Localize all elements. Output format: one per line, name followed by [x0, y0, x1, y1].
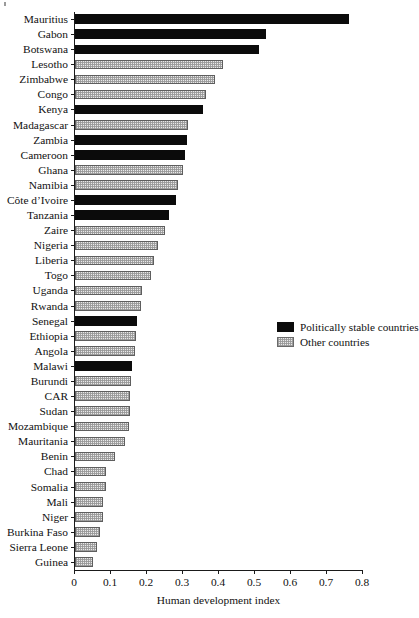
category-label: CAR	[45, 389, 68, 404]
bar	[75, 14, 349, 24]
bar-row: Botswana	[74, 42, 362, 57]
bar-row: Burundi	[74, 374, 362, 389]
bar	[75, 241, 158, 251]
bar	[75, 286, 142, 296]
bar	[75, 75, 215, 85]
bar	[75, 542, 97, 552]
x-axis-tick	[362, 570, 363, 574]
y-axis-tick	[71, 351, 74, 352]
x-axis-title: Human development index	[74, 594, 363, 606]
category-label: Zaire	[44, 223, 68, 238]
bar	[75, 422, 129, 432]
bar	[75, 301, 141, 311]
category-label: Zimbabwe	[19, 72, 68, 87]
category-label: Gabon	[38, 27, 68, 42]
bar	[75, 482, 106, 492]
y-axis-tick	[71, 426, 74, 427]
bar	[75, 346, 135, 356]
x-axis-tick-label: 0.8	[355, 576, 369, 588]
bar-row: Liberia	[74, 253, 362, 268]
bar-row: Uganda	[74, 283, 362, 298]
category-label: Madagascar	[13, 118, 68, 133]
bar	[75, 527, 100, 537]
y-axis-tick	[71, 381, 74, 382]
x-axis-tick-label: 0.4	[211, 576, 225, 588]
plot-area: MauritiusGabonBotswanaLesothoZimbabweCon…	[74, 12, 362, 570]
x-axis-tick-label: 0.1	[103, 576, 117, 588]
bar-row: Zaire	[74, 223, 362, 238]
category-label: Mauritius	[24, 12, 68, 27]
y-axis-tick	[71, 185, 74, 186]
bar-row: Madagascar	[74, 118, 362, 133]
x-axis-tick	[182, 570, 183, 574]
bar	[75, 29, 266, 39]
bar	[75, 165, 183, 175]
bar-row: CAR	[74, 389, 362, 404]
category-label: Ghana	[38, 163, 68, 178]
category-label: Sudan	[40, 404, 68, 419]
category-label: Zambia	[33, 133, 68, 148]
bar	[75, 497, 103, 507]
x-axis-tick-label: 0	[71, 576, 77, 588]
bar-row: Mali	[74, 495, 362, 510]
x-axis-tick-label: 0.5	[247, 576, 261, 588]
y-axis-tick	[71, 19, 74, 20]
y-axis-tick	[71, 502, 74, 503]
bar	[75, 256, 154, 266]
bar-row: Côte d’Ivoire	[74, 193, 362, 208]
legend-swatch-stable	[277, 322, 294, 332]
category-label: Namibia	[29, 178, 68, 193]
legend-swatch-other	[277, 337, 294, 347]
category-label: Malawi	[33, 359, 68, 374]
y-axis-tick	[71, 49, 74, 50]
bar	[75, 406, 130, 416]
bar	[75, 331, 136, 341]
bar-row: Togo	[74, 268, 362, 283]
category-label: Chad	[44, 464, 68, 479]
bar	[75, 180, 178, 190]
category-label: Sierra Leone	[9, 540, 68, 555]
bar-row: Sierra Leone	[74, 540, 362, 555]
bar-row: Zimbabwe	[74, 72, 362, 87]
category-label: Kenya	[38, 102, 68, 117]
bar	[75, 90, 206, 100]
x-axis-tick	[254, 570, 255, 574]
y-axis-tick	[71, 170, 74, 171]
category-label: Uganda	[33, 283, 68, 298]
y-axis-tick	[71, 396, 74, 397]
x-axis-tick	[290, 570, 291, 574]
x-axis-tick	[146, 570, 147, 574]
bar-row: Rwanda	[74, 299, 362, 314]
bar-row: Guinea	[74, 555, 362, 570]
y-axis-tick	[71, 366, 74, 367]
x-axis-tick	[326, 570, 327, 574]
category-label: Burkina Faso	[7, 525, 68, 540]
x-axis-tick	[110, 570, 111, 574]
bar-row: Benin	[74, 449, 362, 464]
y-axis-tick	[71, 230, 74, 231]
y-axis-tick	[71, 441, 74, 442]
bar	[75, 120, 188, 130]
bar-row: Cameroon	[74, 148, 362, 163]
x-axis-tick-label: 0.7	[319, 576, 333, 588]
y-axis-tick	[71, 547, 74, 548]
category-label: Niger	[42, 510, 68, 525]
x-axis-tick	[218, 570, 219, 574]
y-axis-tick	[71, 34, 74, 35]
bar	[75, 210, 169, 220]
bar-row: Ghana	[74, 163, 362, 178]
y-axis-tick	[71, 321, 74, 322]
bar	[75, 557, 93, 567]
y-axis-tick	[71, 456, 74, 457]
bar-row: Gabon	[74, 27, 362, 42]
y-axis-tick	[71, 155, 74, 156]
bar	[75, 452, 115, 462]
y-axis-tick	[71, 215, 74, 216]
category-label: Ethiopia	[29, 329, 68, 344]
bar	[75, 135, 187, 145]
bar-row: Mauritius	[74, 12, 362, 27]
y-axis-tick	[71, 275, 74, 276]
chart-legend: Politically stable countries Other count…	[277, 320, 419, 350]
y-axis-tick	[71, 562, 74, 563]
